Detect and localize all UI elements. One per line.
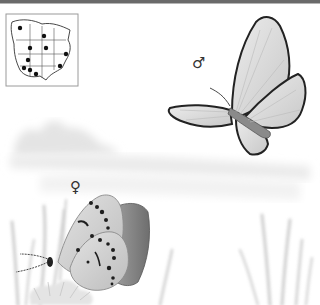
male-symbol: ♂: [192, 56, 205, 71]
range-map-frame: [6, 14, 78, 86]
male-butterfly: [169, 17, 306, 154]
female-butterfly: [16, 195, 150, 290]
female-symbol: ♀: [70, 180, 81, 195]
